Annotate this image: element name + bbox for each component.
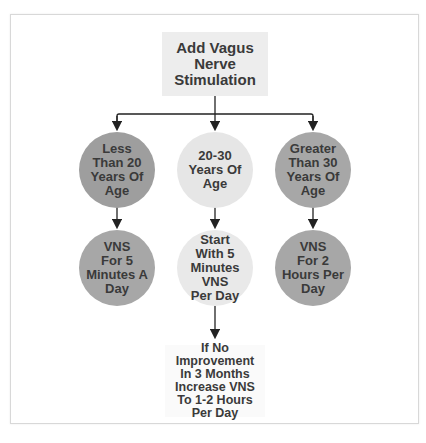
recommendation-node-2-hours: VNS For 2 Hours Per Day xyxy=(275,230,351,306)
root-line: Add Vagus xyxy=(174,40,256,56)
node-line: Greater xyxy=(287,142,340,156)
node-line: Minutes A xyxy=(86,268,148,282)
node-line: Age xyxy=(287,184,340,198)
node-line: Day xyxy=(282,282,344,296)
node-line: Hours Per xyxy=(282,268,344,282)
root-line: Nerve xyxy=(174,56,256,72)
node-line: VNS xyxy=(86,240,148,254)
node-line: Day xyxy=(86,282,148,296)
node-line: Age xyxy=(189,177,242,191)
root-line: Stimulation xyxy=(174,72,256,88)
recommendation-node-start-5-min: Start With 5 Minutes VNS Per Day xyxy=(177,230,253,306)
node-line: For 5 xyxy=(86,254,148,268)
node-line: With 5 xyxy=(177,247,253,261)
node-line: VNS xyxy=(282,240,344,254)
node-line: Per Day xyxy=(175,407,255,420)
node-line: Years Of xyxy=(189,163,242,177)
node-line: Start xyxy=(177,233,253,247)
age-node-20-30: 20-30 Years Of Age xyxy=(177,132,253,208)
node-line: Less xyxy=(91,142,144,156)
node-line: Age xyxy=(91,184,144,198)
root-node-add-vns: Add Vagus Nerve Stimulation xyxy=(162,32,268,96)
node-line: For 2 xyxy=(282,254,344,268)
node-line: Years Of xyxy=(287,170,340,184)
node-line: 20-30 xyxy=(189,149,242,163)
node-line: Than 30 xyxy=(287,156,340,170)
node-line: Than 20 xyxy=(91,156,144,170)
node-line: Per Day xyxy=(177,289,253,303)
age-node-over-30: Greater Than 30 Years Of Age xyxy=(275,132,351,208)
followup-node: If No Improvement In 3 Months Increase V… xyxy=(165,345,265,417)
age-node-under-20: Less Than 20 Years Of Age xyxy=(79,132,155,208)
recommendation-node-5-min: VNS For 5 Minutes A Day xyxy=(79,230,155,306)
node-line: Years Of xyxy=(91,170,144,184)
node-line: Minutes VNS xyxy=(177,261,253,289)
